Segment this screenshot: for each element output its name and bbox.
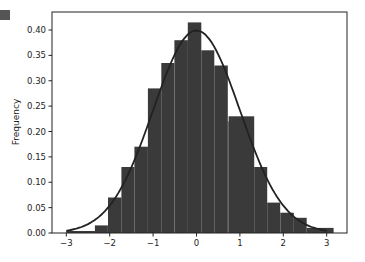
y-tick-label: 0.40 xyxy=(27,25,46,35)
histogram-bar xyxy=(108,198,122,234)
y-tick-label: 0.20 xyxy=(27,127,46,137)
y-tick-label: 0.15 xyxy=(27,152,46,162)
histogram-bar xyxy=(214,66,228,234)
histogram-bar xyxy=(188,22,202,233)
y-tick-label: 0.05 xyxy=(27,203,46,213)
x-tick-label: −1 xyxy=(147,238,160,248)
x-tick-label: 2 xyxy=(281,238,286,248)
histogram-bar xyxy=(201,50,214,233)
histogram-bar xyxy=(95,225,108,233)
y-tick-label: 0.30 xyxy=(27,76,46,86)
histogram-bar xyxy=(229,116,255,233)
y-axis-label: Frequency xyxy=(11,98,21,145)
x-tick-label: −2 xyxy=(103,238,116,248)
y-axis-ticks: 0.000.050.100.150.200.250.300.350.40 xyxy=(27,25,52,238)
y-tick-label: 0.00 xyxy=(27,228,46,238)
x-tick-label: 3 xyxy=(324,238,329,248)
histogram-bar xyxy=(161,63,174,233)
histogram-bar xyxy=(174,40,188,233)
y-tick-label: 0.35 xyxy=(27,50,46,60)
histogram-bar xyxy=(267,203,280,233)
histogram-bar xyxy=(294,218,307,233)
histogram-bar xyxy=(228,121,229,233)
histogram-chart: −3−2−10123 0.000.050.100.150.200.250.300… xyxy=(0,0,365,262)
histogram-bars xyxy=(66,22,333,233)
histogram-bar xyxy=(148,88,162,233)
y-tick-label: 0.10 xyxy=(27,177,46,187)
x-tick-label: 0 xyxy=(194,238,199,248)
x-tick-label: −3 xyxy=(60,238,73,248)
x-axis-ticks: −3−2−10123 xyxy=(60,233,329,248)
x-tick-label: 1 xyxy=(237,238,242,248)
histogram-bar xyxy=(134,147,148,233)
y-tick-label: 0.25 xyxy=(27,101,46,111)
